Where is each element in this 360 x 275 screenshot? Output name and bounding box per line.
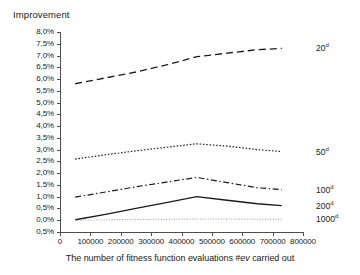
x-axis-tick-label: 300000 [138,238,164,246]
series-label-1000d: 1000d [316,215,338,224]
y-axis-tick-label: 2,5% [20,157,54,165]
x-axis-tick-mark [242,233,243,236]
series-line-20d [75,48,282,83]
x-axis-tick-mark [212,233,213,236]
y-axis-tick-label: 5,5% [20,87,54,95]
y-axis-tick-label: 1,0% [20,193,54,201]
y-axis-tick-labels: 8,0%7,5%7,0%6,5%6,0%5,5%5,0%4,5%4,0%3,5%… [18,0,54,275]
x-axis-tick-label: 0 [58,238,62,246]
y-axis-tick-label: 1,5% [20,181,54,189]
y-axis-tick-label: 6,0% [20,75,54,83]
series-label-20d: 20d [316,44,329,53]
y-axis-tick-label: 6,5% [20,63,54,71]
x-axis-tick-mark [151,233,152,236]
y-axis-tick-label: 5,0% [20,99,54,107]
series-label-50d: 50d [316,148,329,157]
x-axis-tick-mark [121,233,122,236]
series-label-superscript: d [330,184,333,190]
x-axis-title-before: The number of fitness function evaluatio… [66,253,235,263]
series-label-text: 200 [316,201,330,211]
x-axis-title-after: carried out [250,253,294,263]
series-label-text: 100 [316,185,330,195]
series-label-superscript: d [325,43,328,49]
x-axis-tick-label: 700000 [260,238,286,246]
series-label-superscript: d [335,213,338,219]
x-axis-tick-mark [273,233,274,236]
series-label-text: 1000 [316,214,335,224]
y-axis-tick-label: 4,0% [20,122,54,130]
series-line-200d [75,197,282,220]
x-axis-tick-label: 200000 [108,238,134,246]
y-axis-tick-label: 3,0% [20,146,54,154]
x-axis-title: The number of fitness function evaluatio… [0,253,360,263]
y-axis-tick-label: 7,5% [20,40,54,48]
series-label-100d: 100d [316,186,334,195]
x-axis-tick-label: 100000 [77,238,103,246]
series-line-50d [75,144,282,159]
x-axis-tick-mark [182,233,183,236]
y-axis-tick-label: 2,0% [20,169,54,177]
series-lines [60,32,303,232]
x-axis-tick-label: 500000 [199,238,225,246]
x-axis-tick-mark [60,233,61,236]
y-axis-tick-label: 0,5% [20,204,54,212]
x-axis-tick-mark [303,233,304,236]
plot-area [60,32,303,232]
x-axis-title-italic: #ev [235,253,249,263]
series-line-100d [75,177,282,197]
series-label-superscript: d [330,200,333,206]
y-axis-tick-label: 7,0% [20,52,54,60]
x-axis-tick-mark [90,233,91,236]
y-axis-tick-label: 0,0% [20,216,54,224]
series-label-superscript: d [325,146,328,152]
improvement-line-chart: Improvement 8,0%7,5%7,0%6,5%6,0%5,5%5,0%… [0,0,360,275]
x-axis-tick-label: 600000 [229,238,255,246]
series-line-1000d [75,219,282,220]
y-axis-tick-label: 3,5% [20,134,54,142]
x-axis-tick-label: 400000 [169,238,195,246]
y-axis-tick-label: 8,0% [20,28,54,36]
y-axis-tick-label: 0,5% [20,228,54,236]
x-axis-tick-label: 800000 [290,238,316,246]
series-label-200d: 200d [316,202,334,211]
y-axis-tick-label: 4,5% [20,110,54,118]
